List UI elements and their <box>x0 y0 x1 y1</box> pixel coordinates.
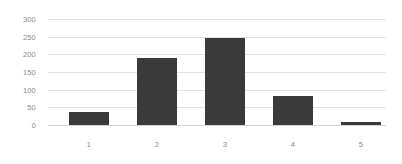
gridline-300 <box>48 19 386 20</box>
bar-5[interactable] <box>341 122 381 125</box>
bar-3[interactable] <box>205 38 245 125</box>
y-tick-label-250: 250 <box>23 32 36 41</box>
bar-2[interactable] <box>137 58 177 125</box>
plot-area <box>48 19 386 125</box>
x-tick-label-4: 4 <box>291 140 295 149</box>
bar-chart: 300 250 200 150 100 50 0 1 2 3 4 5 <box>0 0 402 164</box>
gridline-0 <box>48 125 386 126</box>
y-tick-label-0: 0 <box>32 121 36 130</box>
x-tick-label-3: 3 <box>223 140 227 149</box>
x-tick-label-5: 5 <box>359 140 363 149</box>
x-tick-label-1: 1 <box>87 140 91 149</box>
y-tick-label-100: 100 <box>23 85 36 94</box>
y-tick-label-200: 200 <box>23 50 36 59</box>
bar-4[interactable] <box>273 96 313 125</box>
bar-1[interactable] <box>69 112 109 125</box>
y-tick-label-50: 50 <box>27 103 36 112</box>
y-tick-label-300: 300 <box>23 15 36 24</box>
y-axis: 300 250 200 150 100 50 0 <box>0 0 44 164</box>
x-tick-label-2: 2 <box>155 140 159 149</box>
y-tick-label-150: 150 <box>23 68 36 77</box>
